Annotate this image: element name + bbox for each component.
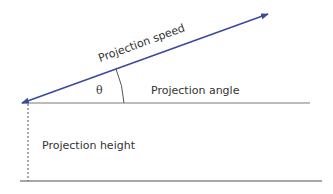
speed-label: Projection speed — [97, 21, 187, 64]
theta-label: θ — [96, 84, 103, 97]
angle-label: Projection angle — [151, 84, 240, 97]
angle-arc — [116, 69, 124, 103]
projection-diagram: Projection speed θ Projection angle Proj… — [0, 0, 333, 194]
height-label: Projection height — [42, 139, 136, 152]
